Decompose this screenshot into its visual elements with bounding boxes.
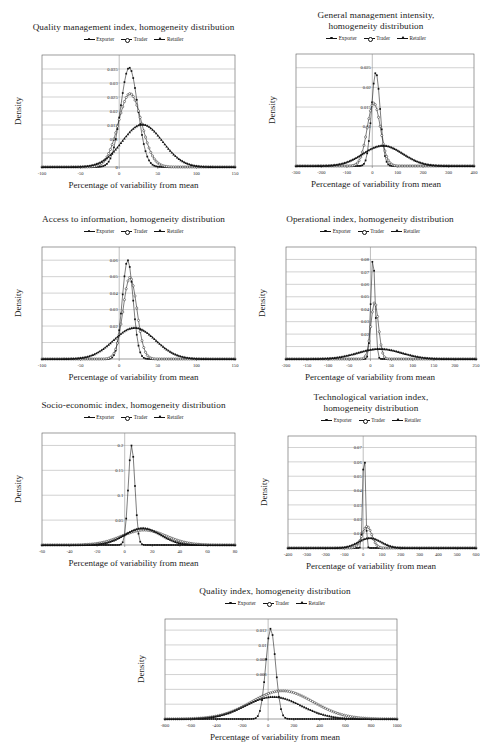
legend-item-trader: Trader	[121, 36, 147, 42]
legend-item-retailer: Retailer	[397, 35, 426, 41]
legend-label: Trader	[134, 414, 148, 420]
svg-text:0.04: 0.04	[110, 291, 119, 296]
chart-legend: ExporterTraderRetailer	[272, 35, 480, 41]
chart-panel-general-management-intensity: General management intensity, homogeneit…	[272, 10, 480, 202]
plot-svg: 0.020.030.040.050.060.070.08-200-150-100…	[260, 241, 483, 373]
legend-item-trader: Trader	[121, 228, 147, 234]
svg-text:0: 0	[369, 363, 372, 368]
svg-text:0.03: 0.03	[354, 503, 363, 508]
svg-text:0.06: 0.06	[361, 282, 370, 287]
legend-label: Retailer	[167, 228, 183, 234]
legend-label: Trader	[376, 35, 390, 41]
chart-legend: ExporterTraderRetailer	[260, 228, 480, 234]
plot-svg: 0.010.0150.020.025-300-200-1000100200300…	[272, 48, 483, 180]
svg-text:-400: -400	[284, 552, 293, 557]
legend-label: Exporter	[96, 228, 114, 234]
plot-area: Density0.010.0150.020.025-300-200-100010…	[272, 48, 480, 180]
svg-text:-100: -100	[340, 552, 349, 557]
plot-svg: 0.020.030.040.050.06-100-50050100150	[6, 241, 245, 373]
svg-text:-150: -150	[303, 363, 312, 368]
chart-title: General management intensity, homogeneit…	[272, 10, 480, 32]
svg-text:0.15: 0.15	[115, 468, 124, 473]
x-axis-label: Percentage of variability from mean	[125, 732, 425, 742]
svg-text:0: 0	[267, 723, 270, 728]
svg-text:-200: -200	[282, 363, 291, 368]
svg-text:-40: -40	[67, 549, 74, 554]
svg-text:0.02: 0.02	[110, 109, 119, 114]
svg-text:-100: -100	[38, 363, 47, 368]
svg-text:0.05: 0.05	[361, 294, 370, 299]
x-axis-label: Percentage of variability from mean	[262, 561, 480, 571]
legend-item-retailer: Retailer	[154, 414, 183, 420]
chart-legend: ExporterTraderRetailer	[6, 36, 261, 42]
legend-marker-tri-icon	[154, 37, 165, 41]
svg-text:200: 200	[397, 552, 405, 557]
svg-text:80: 80	[233, 549, 238, 554]
svg-text:0.06: 0.06	[354, 460, 363, 465]
legend-label: Exporter	[96, 414, 114, 420]
svg-text:0.03: 0.03	[361, 319, 370, 324]
legend-item-trader: Trader	[364, 35, 390, 41]
svg-text:50: 50	[389, 363, 394, 368]
svg-text:0.02: 0.02	[354, 517, 363, 522]
x-axis-label: Percentage of variability from mean	[6, 180, 261, 190]
chart-panel-technological-variation-index: Technological variation index, homogenei…	[262, 392, 480, 584]
plot-svg: 0.0060.0080.010.012-800-600-400-20002004…	[125, 613, 407, 733]
legend-marker-tri-icon	[397, 36, 408, 40]
y-axis-label: Density	[267, 96, 277, 124]
chart-legend: ExporterTraderRetailer	[6, 414, 261, 420]
legend-label: Trader	[370, 228, 384, 234]
legend-marker-circ-icon	[364, 36, 375, 40]
svg-text:0: 0	[118, 171, 121, 176]
svg-text:0.07: 0.07	[361, 270, 370, 275]
svg-text:800: 800	[368, 723, 376, 728]
svg-text:400: 400	[435, 552, 443, 557]
legend-item-trader: Trader	[358, 228, 384, 234]
chart-legend: ExporterTraderRetailer	[6, 228, 261, 234]
legend-item-exporter: Exporter	[84, 414, 115, 420]
svg-text:200: 200	[420, 170, 428, 175]
svg-text:0.04: 0.04	[361, 307, 370, 312]
legend-item-trader: Trader	[263, 600, 289, 606]
svg-text:-200: -200	[321, 552, 330, 557]
plot-area: Density0.020.030.040.050.060.070.08-200-…	[260, 241, 480, 373]
svg-text:-50: -50	[346, 363, 353, 368]
plot-area: Density0.050.10.150.2-60-40-20020406080	[6, 427, 261, 559]
svg-text:60: 60	[205, 549, 210, 554]
svg-text:0.02: 0.02	[110, 324, 119, 329]
y-axis-label: Density	[13, 475, 23, 503]
svg-text:40: 40	[178, 549, 183, 554]
svg-text:0.05: 0.05	[354, 474, 363, 479]
plot-svg: 0.050.10.150.2-60-40-20020406080	[6, 427, 245, 559]
legend-label: Exporter	[334, 417, 352, 423]
svg-text:200: 200	[290, 723, 298, 728]
svg-text:50: 50	[156, 363, 161, 368]
y-axis-label: Density	[13, 289, 23, 317]
legend-item-retailer: Retailer	[392, 417, 421, 423]
svg-text:0.05: 0.05	[115, 518, 124, 523]
legend-label: Exporter	[96, 36, 114, 42]
svg-text:0.1: 0.1	[117, 493, 123, 498]
svg-text:150: 150	[232, 363, 240, 368]
chart-title: Operational index, homogeneity distribut…	[260, 214, 480, 225]
svg-text:0.025: 0.025	[107, 95, 118, 100]
svg-text:0.015: 0.015	[360, 105, 371, 110]
svg-text:0.02: 0.02	[361, 332, 370, 337]
chart-legend: ExporterTraderRetailer	[262, 417, 480, 423]
svg-text:400: 400	[316, 723, 324, 728]
legend-marker-tri-icon	[296, 601, 307, 605]
svg-text:0.012: 0.012	[256, 628, 267, 633]
legend-label: Retailer	[404, 417, 420, 423]
legend-marker-circ-icon	[121, 229, 132, 233]
legend-marker-circ-icon	[263, 601, 274, 605]
legend-marker-dot-icon	[320, 229, 331, 233]
svg-text:-20: -20	[94, 549, 101, 554]
legend-item-retailer: Retailer	[154, 228, 183, 234]
svg-text:200: 200	[451, 363, 459, 368]
legend-label: Retailer	[167, 36, 183, 42]
legend-label: Trader	[275, 600, 289, 606]
legend-item-trader: Trader	[359, 417, 385, 423]
legend-label: Exporter	[238, 600, 256, 606]
legend-marker-dot-icon	[84, 229, 95, 233]
svg-text:-300: -300	[292, 170, 301, 175]
